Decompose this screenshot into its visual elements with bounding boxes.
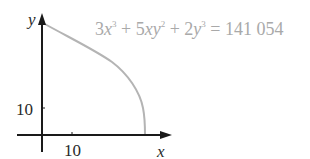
y-axis-arrow-icon <box>38 13 46 25</box>
y-axis-label: y <box>26 10 36 29</box>
x-axis-label: x <box>156 142 165 159</box>
x-axis-arrow-icon <box>160 131 172 139</box>
implicit-curve-diagram: y x 10 10 3x3 + 5xy2 + 2y3 = 141 054 <box>0 0 310 159</box>
equation-label: 3x3 + 5xy2 + 2y3 = 141 054 <box>95 19 283 39</box>
x-tick-label: 10 <box>64 141 81 159</box>
y-tick-label: 10 <box>16 100 33 119</box>
implicit-curve <box>43 23 145 135</box>
